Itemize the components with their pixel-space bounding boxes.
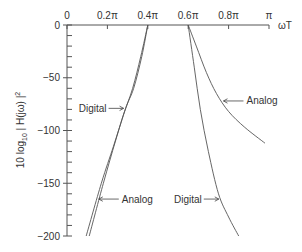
series-analog-upper-curve [188,25,265,143]
annotation-label: Digital [79,103,107,114]
y-tick-label: 0 [54,20,60,31]
chart: 00.2π0.4π0.6π0.8ππ 0−50−100−150−200 Digi… [0,0,302,252]
annotation-label: Digital [174,194,202,205]
x-axis-label: ωT [278,20,292,31]
x-tick-label: π [266,10,273,21]
y-label-post: | H(jω) | [15,96,26,133]
y-tick-label: −100 [37,125,60,136]
x-tick-label: 0.6π [178,10,199,21]
x-tick-label: 0.4π [137,10,158,21]
annotation-label: Analog [246,95,277,106]
annotations: DigitalAnalogAnalogDigital [79,95,278,204]
y-tick-label: −50 [43,72,60,83]
x-tick-label: 0.2π [97,10,118,21]
x-ticks: 00.2π0.4π0.6π0.8ππ [64,10,272,29]
y-label-sub: 10 [21,133,28,141]
annotation-label: Analog [122,194,153,205]
x-tick-label: 0.8π [218,10,239,21]
y-label-sup: 2 [14,92,21,96]
y-label-pre: 10 log [15,141,26,168]
y-tick-label: −150 [37,178,60,189]
x-tick-label: 0 [64,10,70,21]
y-tick-label: −200 [37,231,60,242]
y-axis-label: 10 log10 | H(jω) |2 [14,92,28,169]
